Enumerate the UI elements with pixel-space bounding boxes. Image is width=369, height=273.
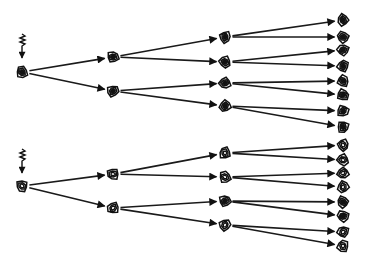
cell-node-light — [17, 181, 27, 192]
lineage-arrow — [121, 57, 217, 61]
lineage-arrow — [29, 58, 104, 70]
cell-node-dark — [338, 196, 348, 208]
lineage-arrow — [29, 74, 104, 90]
lineage-arrow — [29, 175, 104, 185]
cell-node-dark — [338, 31, 350, 43]
cell-node-light — [337, 154, 349, 166]
cell-node-light — [337, 139, 348, 151]
cell-node-light — [338, 181, 350, 193]
lineage-arrow — [120, 155, 216, 173]
cell-node-light — [220, 147, 230, 158]
lineage-arrow — [120, 209, 216, 224]
squiggle-arrow-icon — [20, 149, 25, 173]
lineage-arrow — [233, 153, 335, 159]
cell-node-dark — [337, 60, 349, 71]
lineage-arrow — [120, 39, 216, 56]
cell-node-dark — [338, 89, 349, 100]
cell-node-dark — [337, 45, 349, 56]
lineage-arrow — [121, 84, 217, 91]
cell-node-dark — [108, 86, 119, 97]
cell-node-dark — [108, 52, 119, 62]
lineage-arrow — [232, 202, 334, 215]
cell-node-light — [337, 240, 348, 251]
lineage-arrow — [233, 178, 335, 187]
lineage-arrow — [120, 92, 216, 105]
lineage-diagram — [0, 0, 369, 273]
cell-node-dark — [337, 75, 348, 87]
signals-layer — [20, 34, 25, 173]
cell-node-dark — [220, 32, 231, 44]
cell-node-dark — [219, 77, 231, 88]
lineage-arrow — [232, 21, 334, 36]
lineage-arrow — [233, 84, 335, 94]
cell-node-dark — [219, 100, 231, 112]
lineage-arrow — [121, 174, 217, 177]
cell-node-light — [337, 167, 350, 177]
cell-node-light — [107, 170, 118, 180]
cell-node-dark — [337, 211, 349, 223]
lineage-arrow — [233, 62, 335, 65]
cell-node-dark — [219, 56, 230, 68]
cell-node-dark — [338, 14, 349, 27]
cell-node-light — [337, 227, 349, 237]
cell-node-dark — [220, 196, 232, 206]
cell-node-dark — [17, 66, 27, 77]
lineage-arrow — [29, 188, 104, 206]
lineage-arrow — [233, 51, 335, 61]
lineage-arrow — [233, 173, 335, 176]
edges-layer — [29, 21, 334, 244]
squiggle-arrow-icon — [20, 34, 25, 58]
lineage-arrow — [121, 202, 217, 208]
cell-node-dark — [338, 106, 349, 116]
cell-node-light — [221, 171, 232, 182]
cell-node-dark — [338, 122, 348, 132]
cell-node-light — [219, 220, 231, 231]
lineage-arrow — [233, 81, 335, 83]
lineage-arrow — [233, 201, 335, 202]
nodes-layer — [17, 14, 349, 252]
cell-node-light — [108, 202, 119, 212]
lineage-arrow — [233, 146, 335, 153]
